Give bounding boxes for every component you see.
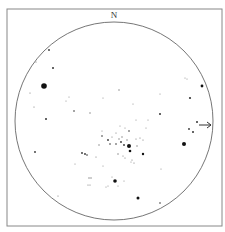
star — [52, 67, 54, 69]
arrow-marker-icon — [199, 122, 211, 128]
star — [29, 92, 30, 93]
star — [98, 144, 99, 145]
star — [161, 169, 162, 170]
star — [128, 130, 130, 132]
star — [120, 126, 121, 127]
star — [102, 131, 103, 132]
star — [182, 142, 186, 146]
star — [87, 184, 88, 185]
chart-frame — [7, 9, 222, 226]
star — [135, 138, 136, 139]
star — [124, 181, 125, 182]
star — [122, 155, 123, 156]
star — [103, 98, 104, 99]
star — [118, 138, 119, 139]
star — [115, 132, 116, 133]
star — [124, 157, 125, 158]
star — [125, 128, 126, 129]
star — [131, 162, 132, 163]
star — [57, 195, 58, 196]
star — [89, 112, 90, 113]
star — [139, 137, 140, 138]
star-field — [29, 49, 203, 204]
star — [48, 49, 50, 51]
star — [133, 162, 134, 163]
north-label: N — [111, 11, 118, 20]
star — [189, 97, 191, 99]
star — [133, 104, 134, 105]
star — [159, 113, 161, 115]
star — [142, 153, 144, 155]
star — [120, 141, 122, 143]
star — [142, 139, 143, 140]
star — [201, 85, 204, 88]
star — [126, 139, 127, 140]
star — [90, 177, 91, 178]
star — [75, 164, 76, 165]
star — [81, 152, 83, 154]
star — [127, 144, 131, 148]
star — [196, 121, 198, 123]
star — [136, 120, 137, 121]
star — [160, 94, 161, 95]
field-of-view-circle — [15, 22, 213, 220]
star — [109, 143, 111, 145]
star — [41, 83, 47, 89]
star — [45, 118, 47, 120]
star — [187, 79, 188, 80]
star — [34, 151, 36, 153]
star — [123, 144, 125, 146]
star — [111, 136, 112, 137]
star — [185, 78, 186, 79]
star — [188, 128, 190, 130]
star — [84, 153, 86, 155]
star — [117, 153, 118, 154]
star — [66, 101, 67, 102]
star — [137, 197, 140, 200]
star — [35, 61, 36, 62]
star — [89, 184, 90, 185]
star — [103, 166, 104, 167]
star — [121, 136, 122, 137]
star — [118, 186, 119, 187]
star — [69, 97, 70, 98]
star — [148, 120, 149, 121]
star — [115, 143, 117, 145]
star — [88, 177, 89, 178]
star — [95, 156, 96, 157]
star — [112, 177, 113, 178]
star — [192, 131, 194, 133]
star — [107, 139, 109, 141]
star — [33, 106, 34, 107]
star — [108, 186, 109, 187]
star — [146, 128, 147, 129]
star — [118, 89, 119, 90]
star — [86, 154, 88, 156]
star — [159, 202, 161, 204]
star — [129, 150, 132, 153]
star — [136, 145, 137, 146]
star — [131, 159, 132, 160]
star — [101, 135, 103, 137]
star — [113, 179, 117, 183]
star-chart — [0, 0, 225, 232]
star — [73, 110, 75, 112]
star — [106, 187, 107, 188]
